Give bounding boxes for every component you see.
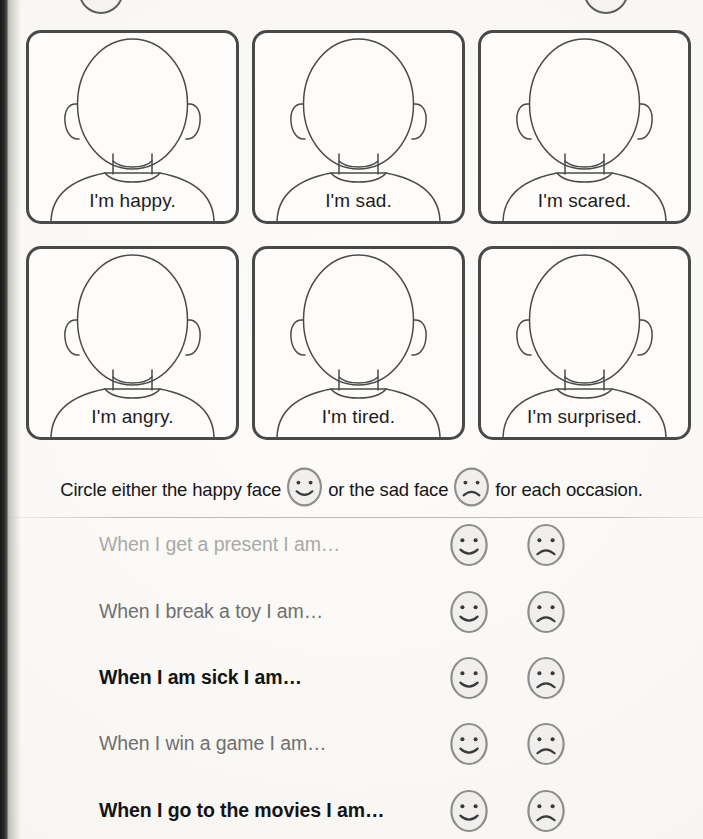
scan-edge-shadow — [9, 0, 21, 839]
instruction-text-part3: for each occasion. — [495, 479, 642, 501]
instruction-line: Circle either the happy face or the sad … — [0, 467, 703, 512]
emotion-card-label: I'm happy. — [29, 190, 236, 212]
emotion-card-happy[interactable]: I'm happy. — [26, 30, 239, 224]
cropped-face-arc-right — [583, 0, 629, 14]
sad-face-option[interactable] — [526, 656, 566, 704]
happy-face-option[interactable] — [449, 789, 489, 837]
sad-face-option[interactable] — [526, 523, 566, 571]
emotion-card-label: I'm sad. — [255, 190, 462, 212]
emotion-card-surprised[interactable]: I'm surprised. — [478, 246, 691, 440]
section-divider — [10, 517, 703, 518]
question-row: When I win a game I am… — [0, 722, 703, 764]
scan-binding-edge — [0, 0, 9, 839]
emotion-card-label: I'm tired. — [255, 406, 462, 428]
instruction-text-part1: Circle either the happy face — [60, 479, 281, 501]
emotion-card-tired[interactable]: I'm tired. — [252, 246, 465, 440]
sad-face-option[interactable] — [526, 789, 566, 837]
question-text: When I win a game I am… — [99, 732, 326, 755]
question-text: When I break a toy I am… — [99, 600, 323, 623]
instruction-text-part2: or the sad face — [328, 479, 448, 501]
happy-face-option[interactable] — [449, 590, 489, 638]
instruction-sad-face-icon — [453, 467, 490, 512]
question-row: When I am sick I am… — [0, 656, 703, 698]
question-row: When I go to the movies I am… — [0, 789, 703, 831]
question-text: When I get a present I am… — [99, 533, 340, 556]
emotion-card-sad[interactable]: I'm sad. — [252, 30, 465, 224]
instruction-happy-face-icon — [286, 467, 323, 512]
question-row: When I break a toy I am… — [0, 590, 703, 632]
emotion-card-label: I'm scared. — [481, 190, 688, 212]
emotion-card-angry[interactable]: I'm angry. — [26, 246, 239, 440]
question-text: When I am sick I am… — [99, 666, 302, 689]
question-row: When I get a present I am… — [0, 523, 703, 565]
happy-face-option[interactable] — [449, 722, 489, 770]
happy-face-option[interactable] — [449, 656, 489, 704]
emotion-card-label: I'm surprised. — [481, 406, 688, 428]
cropped-face-arc-left — [78, 0, 124, 14]
emotion-card-scared[interactable]: I'm scared. — [478, 30, 691, 224]
sad-face-option[interactable] — [526, 722, 566, 770]
question-text: When I go to the movies I am… — [99, 799, 384, 822]
happy-face-option[interactable] — [449, 523, 489, 571]
sad-face-option[interactable] — [526, 590, 566, 638]
emotion-card-label: I'm angry. — [29, 406, 236, 428]
worksheet-page: I'm happy. I'm sad. — [0, 0, 703, 839]
